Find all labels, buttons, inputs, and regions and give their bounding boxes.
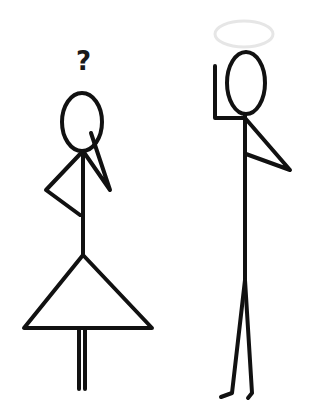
right-stick-figure [215,21,290,398]
stick-figures-drawing [0,0,310,401]
illustration: ? [0,0,310,401]
left-stick-figure [24,93,152,389]
halo-icon [215,21,273,47]
